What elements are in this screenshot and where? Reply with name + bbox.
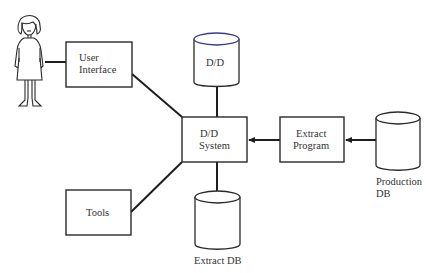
production-db-cylinder-icon[interactable] xyxy=(376,118,420,170)
dd-store-label: D/D xyxy=(206,57,225,68)
dd-store-node[interactable]: D/D xyxy=(194,33,239,87)
dd-system-diagram: User Interface D/D D/D System Extract Pr… xyxy=(0,0,440,273)
production-db-cylinder-top xyxy=(376,112,420,124)
tools-node[interactable]: Tools xyxy=(66,190,131,235)
extract-program-label-line1: Extract xyxy=(296,128,326,139)
user-figure xyxy=(15,15,43,106)
dd-store-cylinder-top xyxy=(194,33,239,45)
dd-system-label-line2: System xyxy=(199,140,230,151)
user-interface-node[interactable]: User Interface xyxy=(66,42,132,87)
extract-db-cylinder-top xyxy=(195,191,240,203)
extract-db-label: Extract DB xyxy=(194,255,242,266)
user-interface-label-line2: Interface xyxy=(79,64,117,75)
production-db-label-line2: DB xyxy=(376,188,391,199)
tools-label: Tools xyxy=(86,207,109,218)
extract-db-node[interactable]: Extract DB xyxy=(194,191,242,266)
person-face-icon xyxy=(22,23,36,35)
extract-program-label-line2: Program xyxy=(293,140,329,151)
production-db-node[interactable]: Production DB xyxy=(376,112,423,199)
edge-ui-to-dd-system xyxy=(132,74,182,117)
person-legs-icon xyxy=(19,80,41,106)
extract-program-node[interactable]: Extract Program xyxy=(280,117,344,162)
dd-system-node[interactable]: D/D System xyxy=(182,117,247,162)
extract-db-cylinder-icon[interactable] xyxy=(195,197,240,249)
edge-tools-to-dd-system xyxy=(131,162,182,212)
user-interface-label-line1: User xyxy=(79,52,99,63)
production-db-label-line1: Production xyxy=(376,176,423,187)
dd-system-label-line1: D/D xyxy=(200,128,219,139)
